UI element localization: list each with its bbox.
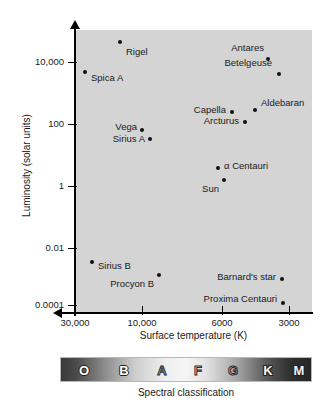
spectral-class-letter: G [228,363,238,376]
star-point [222,178,226,182]
x-tick-label: 10,000 [127,317,156,328]
spectral-class-letter: A [157,363,166,376]
star-point [281,301,285,305]
x-tick-label: 30,000 [60,317,89,328]
star-point [140,128,144,132]
star-label: Barnard's star [217,272,276,282]
y-tick-label: 1 [59,180,64,191]
star-label: Procyon B [110,279,154,289]
star-point [157,273,161,277]
star-point [230,110,234,114]
star-label: Arcturus [204,116,239,126]
spectral-class-letter: B [119,363,128,376]
star-point [90,260,94,264]
star-label: Sirius B [98,261,131,271]
y-tick-mark [68,186,77,187]
x-axis-line [60,312,313,314]
x-tick-mark [142,306,143,315]
y-tick-label: 100 [48,118,64,129]
star-label: Proxima Centauri [204,294,277,304]
star-point [148,137,152,141]
star-point [216,166,220,170]
y-tick-label: 0.01 [46,242,65,253]
y-axis-line [74,27,76,316]
star-label: Spica A [91,73,123,83]
star-label: Rigel [126,47,148,57]
x-tick-label: 6000 [211,317,232,328]
star-label: Betelgeuse [224,58,272,68]
x-tick-label: 3000 [278,317,299,328]
star-label: α Centauri [224,161,268,171]
spectral-class-letter: M [294,363,305,376]
star-label: Vega [115,122,137,132]
star-label: Antares [231,43,264,53]
y-tick-mark [68,248,77,249]
star-point [253,108,257,112]
star-point [280,277,284,281]
star-point [243,120,247,124]
star-label: Sirius A [113,134,145,144]
y-tick-mark [68,124,77,125]
spectral-classification-caption: Spectral classification [60,387,312,398]
spectral-class-letter: O [79,363,89,376]
star-label: Sun [202,184,219,194]
star-label: Capella [194,105,226,115]
star-point [118,40,122,44]
y-axis-title: Luminosity (solar units) [21,71,32,261]
x-tick-mark [75,306,76,315]
y-tick-label: 10,000 [35,56,64,67]
x-tick-mark [289,306,290,315]
x-axis-title: Surface temperature (K) [75,330,312,341]
star-point [83,70,87,74]
y-axis-arrow-icon [70,20,80,29]
spectral-classification-bar: OBAFGKM [60,357,312,382]
y-tick-label: 0.0001 [35,299,64,310]
x-tick-mark [222,306,223,315]
star-point [277,72,281,76]
spectral-class-letter: K [263,363,272,376]
hr-diagram-figure: 10,00010010.010.0001 30,00010,0006000300… [0,0,331,410]
y-tick-mark [68,62,77,63]
star-label: Aldebaran [261,98,304,108]
spectral-class-letter: F [194,363,202,376]
